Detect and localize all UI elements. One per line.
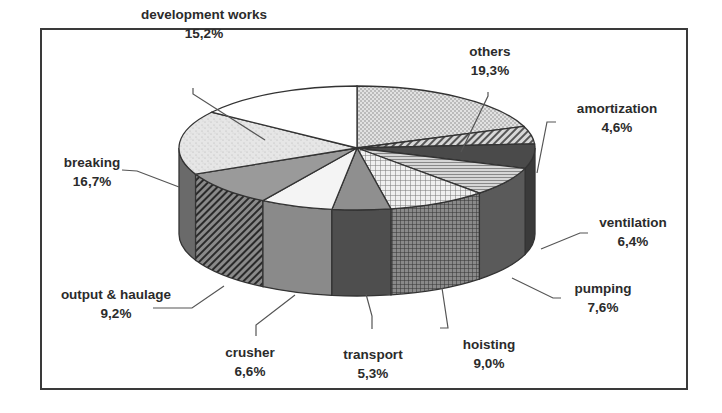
label-crusher: crusher 6,6%: [225, 343, 275, 381]
label-name: others: [469, 42, 510, 61]
pie-side-5: [332, 209, 391, 296]
label-amortization: amortization 4,6%: [577, 99, 657, 137]
leader-line-7: [440, 288, 448, 328]
label-value: 9,2%: [61, 304, 171, 323]
label-value: 15,2%: [141, 24, 267, 43]
label-name: transport: [343, 345, 402, 364]
leader-line-4: [541, 233, 588, 249]
label-name: ventilation: [599, 213, 667, 232]
label-pumping: pumping 7,6%: [575, 279, 632, 317]
label-value: 9,0%: [463, 354, 516, 373]
label-value: 6,4%: [599, 232, 667, 251]
label-value: 16,7%: [64, 172, 120, 191]
label-output-haulage: output & haulage 9,2%: [61, 285, 171, 323]
label-ventilation: ventilation 6,4%: [599, 213, 667, 251]
label-hoisting: hoisting 9,0%: [463, 335, 516, 373]
label-value: 5,3%: [343, 364, 402, 383]
pie-slices: [179, 86, 535, 296]
pie-side-6: [263, 201, 332, 296]
label-others: others 19,3%: [469, 42, 510, 80]
leader-line-9: [366, 294, 372, 329]
label-value: 7,6%: [575, 298, 632, 317]
label-name: development works: [141, 5, 267, 24]
label-value: 6,6%: [225, 362, 275, 381]
leader-line-2: [537, 122, 556, 173]
leader-line-3: [122, 170, 179, 187]
label-name: output & haulage: [61, 285, 171, 304]
label-name: breaking: [64, 153, 120, 172]
label-name: hoisting: [463, 335, 516, 354]
label-value: 4,6%: [577, 118, 657, 137]
label-name: crusher: [225, 343, 275, 362]
leader-line-8: [256, 295, 295, 336]
label-value: 19,3%: [469, 61, 510, 80]
label-transport: transport 5,3%: [343, 345, 402, 383]
leader-line-5: [512, 278, 561, 298]
label-name: amortization: [577, 99, 657, 118]
label-development-works: development works 15,2%: [141, 5, 267, 43]
label-name: pumping: [575, 279, 632, 298]
label-breaking: breaking 16,7%: [64, 153, 120, 191]
